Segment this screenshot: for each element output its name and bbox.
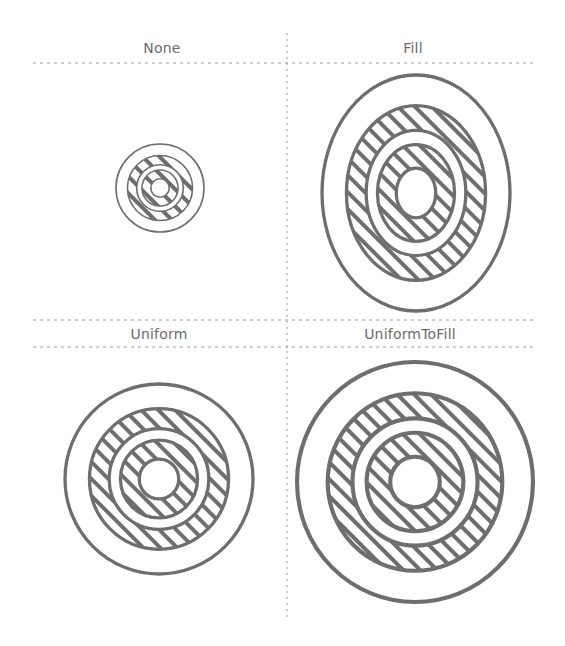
target-uniform	[65, 384, 253, 574]
target-fill	[322, 75, 510, 311]
label-none: None	[143, 40, 180, 56]
target-none	[116, 144, 204, 232]
label-uniform-to-fill: UniformToFill	[364, 326, 456, 342]
center-circle	[396, 168, 435, 218]
center-circle	[151, 179, 169, 197]
label-fill: Fill	[403, 40, 423, 56]
label-uniform: Uniform	[130, 326, 187, 342]
center-circle	[139, 459, 178, 499]
stretch-modes-diagram: None Fill Uniform UniformToFill	[0, 0, 565, 646]
target-uniform-to-fill	[297, 362, 533, 602]
center-circle	[390, 457, 440, 507]
diagram-canvas	[0, 0, 565, 646]
